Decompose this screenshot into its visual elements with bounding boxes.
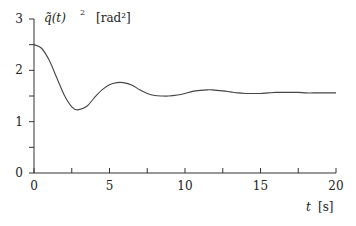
x-tick-label: 20 xyxy=(328,179,343,193)
y-axis: 0123 xyxy=(15,12,34,180)
x-axis-unit: [s] xyxy=(318,200,334,214)
chart: 0123 05101520 q̃(t) 2 [rad²] t [s] xyxy=(0,0,356,226)
y-tick-label: 3 xyxy=(15,12,23,26)
y-axis-title: q̃(t) 2 [rad²] xyxy=(44,8,131,25)
x-axis-title: t [s] xyxy=(306,200,334,214)
x-tick-label: 10 xyxy=(177,179,192,193)
plot-area xyxy=(34,45,336,110)
x-axis-symbol: t xyxy=(306,200,311,214)
x-axis: 05101520 xyxy=(30,168,343,193)
x-tick-label: 15 xyxy=(253,179,268,193)
series-line xyxy=(34,45,336,110)
y-tick-label: 0 xyxy=(15,166,23,180)
x-tick-label: 5 xyxy=(106,179,114,193)
y-tick-label: 2 xyxy=(15,63,23,77)
y-tick-label: 1 xyxy=(15,115,23,129)
y-axis-power: 2 xyxy=(80,8,85,17)
y-axis-unit: [rad²] xyxy=(96,11,131,25)
x-tick-label: 0 xyxy=(30,179,38,193)
y-axis-symbol: q̃(t) xyxy=(44,11,66,25)
